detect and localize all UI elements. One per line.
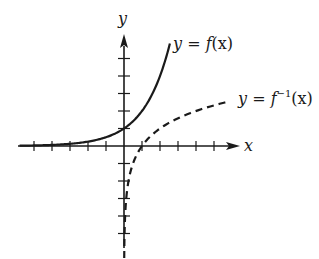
y-axis-arrow-icon: [120, 34, 128, 48]
f-curve-label: y = f(x): [172, 34, 233, 53]
f-inverse-curve-label: y = f−1(x): [237, 88, 313, 108]
finv-label-pre: y =: [237, 89, 271, 108]
f-inverse-curve: [124, 101, 230, 258]
y-axis-label: y: [117, 9, 128, 28]
f-label-pre: y =: [172, 34, 206, 53]
f-curve: [20, 44, 170, 146]
f-label-post: (x): [212, 34, 234, 53]
finv-label-sup: −1: [277, 88, 292, 99]
finv-label-post: (x): [291, 89, 313, 108]
function-inverse-chart: y x y = f(x) y = f−1(x): [0, 0, 319, 259]
x-axis-label: x: [244, 136, 253, 155]
